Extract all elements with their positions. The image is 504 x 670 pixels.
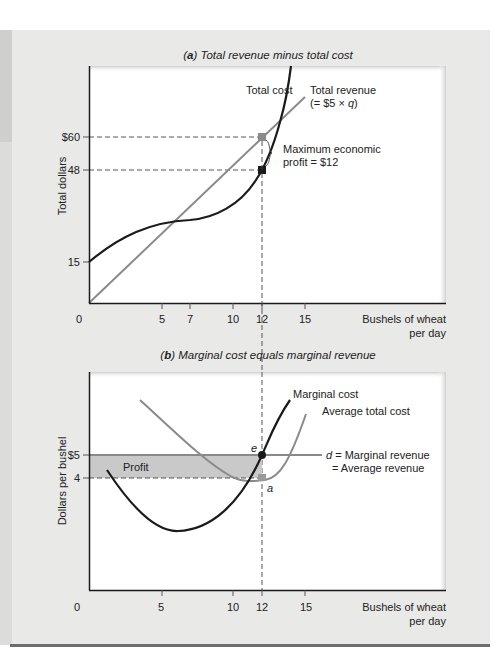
x-tick-10: 10 bbox=[227, 601, 239, 613]
point-revenue-60 bbox=[258, 133, 266, 141]
point-a-label: a bbox=[267, 482, 273, 494]
profit-label: Profit bbox=[123, 461, 149, 473]
average-total-cost-label: Average total cost bbox=[322, 405, 410, 417]
panel-b: (b) Marginal cost equals marginal revenu… bbox=[56, 349, 446, 627]
point-e-label: e bbox=[251, 442, 257, 454]
total-cost-label: Total cost bbox=[246, 84, 292, 96]
panel-a-x-axis-label-1: Bushels of wheat bbox=[362, 313, 446, 325]
average-revenue-label: = Average revenue bbox=[332, 462, 424, 474]
figure: (a) Total revenue minus total cost Total… bbox=[0, 0, 504, 670]
panel-a: (a) Total revenue minus total cost Total… bbox=[56, 49, 446, 339]
y-tick-60: $60 bbox=[62, 131, 80, 143]
x-tick-12: 12 bbox=[256, 601, 268, 613]
panel-a-plot-area bbox=[89, 66, 446, 303]
panel-a-x-axis-label-2: per day bbox=[409, 327, 446, 339]
y-tick-4: 4 bbox=[74, 472, 80, 484]
marginal-cost-label: Marginal cost bbox=[293, 388, 358, 400]
max-profit-label-1: Maximum economic bbox=[283, 143, 381, 155]
point-a bbox=[258, 474, 266, 481]
marginal-revenue-label: d = Marginal revenue bbox=[326, 449, 430, 461]
point-e bbox=[258, 451, 266, 459]
panel-b-x-axis-label-2: per day bbox=[409, 615, 446, 627]
x-tick-15: 15 bbox=[300, 601, 312, 613]
panel-a-right-shade bbox=[438, 66, 446, 303]
panel-a-y-axis-label: Total dollars bbox=[56, 156, 68, 215]
y-tick-5: $5 bbox=[68, 449, 80, 461]
profit-area bbox=[89, 455, 262, 478]
panel-b-top-shade bbox=[89, 372, 446, 378]
x-tick-5: 5 bbox=[159, 313, 165, 325]
panel-b-title: (b) Marginal cost equals marginal revenu… bbox=[160, 349, 375, 361]
x-tick-7: 7 bbox=[187, 313, 193, 325]
x-tick-0: 0 bbox=[76, 313, 82, 325]
panel-b-x-axis-label-1: Bushels of wheat bbox=[362, 601, 446, 613]
x-tick-10: 10 bbox=[227, 313, 239, 325]
total-revenue-formula: (= $5 × q) bbox=[310, 97, 358, 109]
panel-a-title: (a) Total revenue minus total cost bbox=[183, 49, 353, 61]
y-tick-48: 48 bbox=[68, 164, 80, 176]
total-revenue-label: Total revenue bbox=[310, 84, 376, 96]
max-profit-label-2: profit = $12 bbox=[283, 156, 338, 168]
y-tick-15: 15 bbox=[68, 256, 80, 268]
panel-a-top-shade bbox=[89, 66, 446, 72]
x-tick-0: 0 bbox=[74, 601, 80, 613]
x-tick-5: 5 bbox=[158, 601, 164, 613]
panel-b-y-axis-label: Dollars per bushel bbox=[56, 437, 68, 526]
panel-b-right-shade bbox=[438, 372, 446, 590]
x-tick-15: 15 bbox=[299, 313, 311, 325]
